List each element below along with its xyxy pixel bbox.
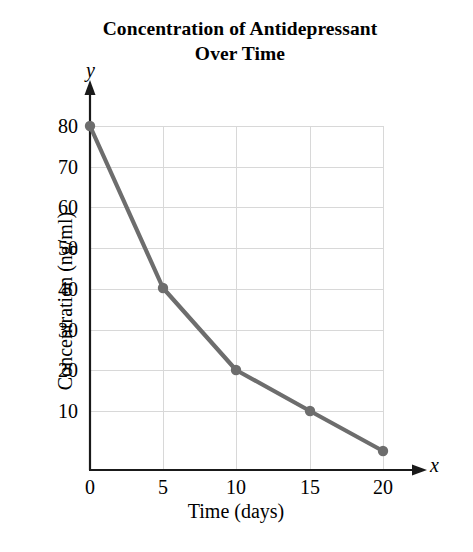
xtick-label-5: 5 xyxy=(143,477,183,497)
y-axis-arrowhead xyxy=(85,80,96,95)
xtick-label-0: 0 xyxy=(70,477,110,497)
data-point-3 xyxy=(305,406,315,416)
x-axis-letter: x xyxy=(430,455,439,475)
data-point-1 xyxy=(158,283,168,293)
ytick-label-80: 80 xyxy=(38,116,78,136)
x-axis-arrowhead xyxy=(412,465,427,476)
vertical-gridlines xyxy=(163,126,383,470)
xtick-label-15: 15 xyxy=(290,477,330,497)
y-axis-title: Concentration (ng/ml) xyxy=(54,151,76,451)
data-point-4 xyxy=(378,446,388,456)
data-point-2 xyxy=(231,365,241,375)
axis-lines xyxy=(89,89,418,470)
x-axis-title: Time (days) xyxy=(86,500,386,522)
y-axis-letter: y xyxy=(86,60,95,80)
chart-figure: Concentration of Antidepressant Over Tim… xyxy=(0,0,473,552)
xtick-label-20: 20 xyxy=(363,477,403,497)
data-point-0 xyxy=(85,121,95,131)
xtick-label-10: 10 xyxy=(216,477,256,497)
